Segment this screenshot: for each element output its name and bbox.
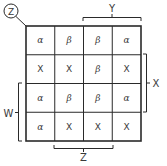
bracket-top-line [83,18,141,22]
cell-r3-c2: X [95,122,101,132]
cell-r1-c2: β [94,64,100,74]
bracket-top-label: Y [108,3,116,14]
cell-r2-c1: β [65,93,71,103]
cell-r3-c0: α [37,122,43,132]
cell-r0-c0: α [37,35,43,45]
bracket-right: X [143,54,160,112]
corner-label-text: Z [8,7,14,17]
cell-r0-c1: β [65,35,71,45]
bracket-left: W [4,83,22,141]
cell-r0-c3: α [124,35,130,45]
cell-r0-c2: β [94,35,100,45]
corner-label: Z [4,4,26,26]
bracket-right-label: X [153,78,160,89]
bracket-bottom-line [54,145,113,149]
bracket-bottom: Z [54,145,113,163]
bracket-top: Y [83,3,141,22]
cell-r1-c1: X [66,64,72,74]
bracket-bottom-label: Z [80,152,87,163]
cell-r3-c3: X [124,122,130,132]
bracket-left-line [19,83,23,141]
cell-r2-c0: α [37,93,43,103]
karnaugh-map-diagram: Z α β β α X X β X α β β α α X X X [0,0,167,166]
bracket-left-label: W [4,108,14,119]
corner-leader-line [16,17,26,27]
cell-r1-c3: X [124,64,130,74]
cell-r1-c0: X [37,64,43,74]
cell-r3-c1: X [66,122,72,132]
cell-r2-c3: α [124,93,130,103]
bracket-right-line [143,54,147,112]
cell-r2-c2: β [94,93,100,103]
